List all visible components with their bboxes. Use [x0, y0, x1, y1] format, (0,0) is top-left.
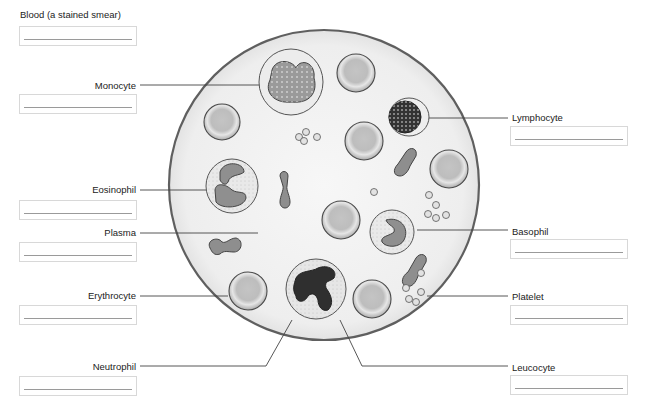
eosinophil-cell	[206, 159, 258, 213]
basophil-cell	[370, 210, 414, 254]
lymphocyte-cell	[389, 98, 429, 136]
monocyte-cell	[259, 49, 323, 115]
neutrophil-cell	[286, 259, 346, 319]
blood-smear-diagram	[0, 0, 651, 411]
